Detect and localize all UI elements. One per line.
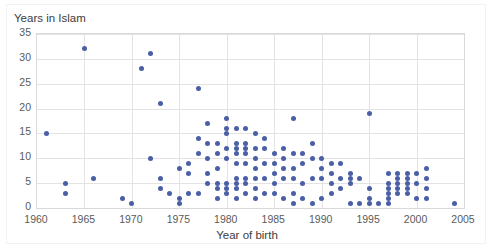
- data-point: [63, 191, 68, 196]
- data-point: [205, 156, 210, 161]
- data-point: [405, 176, 410, 181]
- data-point: [186, 191, 191, 196]
- data-point: [376, 201, 381, 206]
- gridline-vertical: [322, 34, 323, 208]
- data-point: [281, 156, 286, 161]
- data-point: [272, 151, 277, 156]
- data-point: [424, 196, 429, 201]
- data-point: [310, 156, 315, 161]
- gridline-horizontal: [37, 133, 464, 134]
- data-point: [63, 181, 68, 186]
- data-point: [234, 126, 239, 131]
- data-point: [386, 181, 391, 186]
- gridline-horizontal: [37, 109, 464, 110]
- data-point: [224, 131, 229, 136]
- data-point: [215, 186, 220, 191]
- y-tick-label: 0: [25, 201, 31, 212]
- data-point: [262, 146, 267, 151]
- data-point: [215, 166, 220, 171]
- data-point: [234, 186, 239, 191]
- data-point: [234, 176, 239, 181]
- y-tick-label: 25: [19, 77, 31, 88]
- data-point: [243, 151, 248, 156]
- data-point: [348, 181, 353, 186]
- x-axis-title: Year of birth: [0, 228, 494, 242]
- data-point: [253, 156, 258, 161]
- data-point: [310, 201, 315, 206]
- data-point: [253, 186, 258, 191]
- gridline-horizontal: [37, 34, 464, 35]
- data-point: [367, 196, 372, 201]
- data-point: [253, 166, 258, 171]
- y-tick-label: 35: [19, 27, 31, 38]
- data-point: [281, 146, 286, 151]
- data-point: [215, 141, 220, 146]
- data-point: [139, 66, 144, 71]
- x-tick-label: 1960: [24, 213, 47, 225]
- plot-area: [36, 33, 465, 209]
- data-point: [357, 201, 362, 206]
- gridline-horizontal: [37, 84, 464, 85]
- data-point: [272, 171, 277, 176]
- data-point: [367, 111, 372, 116]
- data-point: [91, 176, 96, 181]
- data-point: [215, 181, 220, 186]
- scatter-chart: Years in Islam 05101520253035 1960196519…: [0, 0, 494, 250]
- data-point: [148, 51, 153, 56]
- data-point: [329, 191, 334, 196]
- gridline-horizontal: [37, 158, 464, 159]
- data-point: [167, 191, 172, 196]
- data-point: [224, 146, 229, 151]
- data-point: [338, 176, 343, 181]
- data-point: [148, 156, 153, 161]
- data-point: [205, 141, 210, 146]
- data-point: [310, 176, 315, 181]
- data-point: [120, 196, 125, 201]
- data-point: [291, 201, 296, 206]
- gridline-vertical: [132, 34, 133, 208]
- data-point: [319, 166, 324, 171]
- data-point: [186, 171, 191, 176]
- data-point: [158, 176, 163, 181]
- data-point: [262, 176, 267, 181]
- data-point: [205, 171, 210, 176]
- data-point: [291, 191, 296, 196]
- data-point: [234, 151, 239, 156]
- y-tick-label: 30: [19, 52, 31, 63]
- data-point: [196, 86, 201, 91]
- data-point: [386, 171, 391, 176]
- data-point: [82, 46, 87, 51]
- data-point: [424, 186, 429, 191]
- data-point: [243, 181, 248, 186]
- data-point: [262, 161, 267, 166]
- data-point: [414, 171, 419, 176]
- x-tick-label: 1970: [119, 213, 142, 225]
- data-point: [291, 176, 296, 181]
- data-point: [158, 101, 163, 106]
- gridline-vertical: [369, 34, 370, 208]
- data-point: [310, 141, 315, 146]
- data-point: [224, 156, 229, 161]
- data-point: [329, 181, 334, 186]
- data-point: [319, 156, 324, 161]
- x-tick-label: 1985: [262, 213, 285, 225]
- data-point: [424, 166, 429, 171]
- x-tick-label: 1975: [167, 213, 190, 225]
- data-point: [338, 161, 343, 166]
- data-point: [234, 196, 239, 201]
- data-point: [186, 161, 191, 166]
- data-point: [395, 171, 400, 176]
- x-tick-label: 1965: [72, 213, 95, 225]
- data-point: [224, 116, 229, 121]
- gridline-vertical: [84, 34, 85, 208]
- data-point: [319, 176, 324, 181]
- x-tick-label: 1990: [309, 213, 332, 225]
- data-point: [348, 171, 353, 176]
- data-point: [367, 201, 372, 206]
- data-point: [395, 186, 400, 191]
- data-point: [205, 181, 210, 186]
- data-point: [338, 186, 343, 191]
- data-point: [329, 161, 334, 166]
- data-point: [405, 186, 410, 191]
- data-point: [177, 166, 182, 171]
